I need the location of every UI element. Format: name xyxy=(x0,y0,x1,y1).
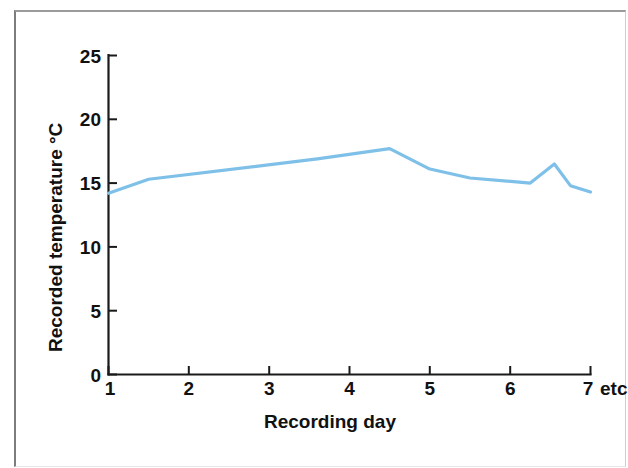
y-axis-ticks xyxy=(109,56,118,375)
line-chart: 0 5 10 15 20 25 1 2 3 4 5 6 7 etc Record… xyxy=(0,0,628,468)
chart-svg: 0 5 10 15 20 25 1 2 3 4 5 6 7 etc Record… xyxy=(0,0,628,468)
x-axis-title: Recording day xyxy=(264,411,396,432)
y-tick-label-25: 25 xyxy=(80,46,102,67)
x-axis-ticks xyxy=(109,366,591,375)
x-tick-label-7: 7 xyxy=(583,378,594,399)
y-tick-label-0: 0 xyxy=(90,365,101,386)
y-tick-label-5: 5 xyxy=(90,301,101,322)
y-tick-label-20: 20 xyxy=(80,109,101,130)
y-tick-label-10: 10 xyxy=(80,237,101,258)
x-axis-etc-label: etc xyxy=(600,378,628,399)
figure-container: 0 5 10 15 20 25 1 2 3 4 5 6 7 etc Record… xyxy=(0,0,628,468)
temperature-series-line xyxy=(109,149,591,194)
x-tick-label-2: 2 xyxy=(184,378,195,399)
y-axis-title: Recorded temperature °C xyxy=(45,122,66,352)
x-tick-label-3: 3 xyxy=(264,378,275,399)
x-tick-label-1: 1 xyxy=(105,378,116,399)
x-tick-label-6: 6 xyxy=(505,378,516,399)
x-tick-label-4: 4 xyxy=(344,378,355,399)
y-tick-label-15: 15 xyxy=(80,173,102,194)
x-tick-label-5: 5 xyxy=(425,378,436,399)
